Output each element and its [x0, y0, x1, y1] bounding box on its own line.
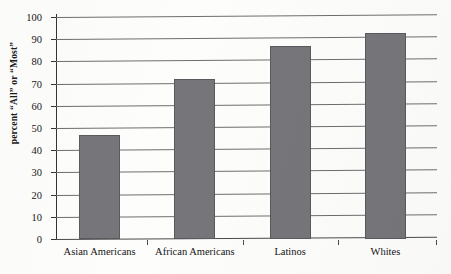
- x-axis-category-label: Latinos: [274, 246, 306, 257]
- y-axis-tick-label: 30: [32, 167, 43, 178]
- y-axis-tick: 60: [51, 106, 56, 107]
- plot-area: 0102030405060708090100: [56, 18, 437, 240]
- y-axis-tick: 100: [51, 17, 56, 18]
- y-axis-tick: 20: [51, 195, 56, 196]
- y-axis-tick-label: 60: [32, 100, 43, 111]
- y-axis-tick-label: 70: [32, 78, 43, 89]
- y-axis-tick-label: 80: [32, 56, 43, 67]
- y-axis-tick: 50: [51, 128, 56, 129]
- y-axis-title: percent “All” or “Most”: [9, 31, 19, 155]
- y-axis-tick-label: 0: [37, 234, 42, 245]
- y-axis-tick: 80: [51, 61, 56, 62]
- y-axis-tick-label: 90: [32, 34, 43, 45]
- x-axis-tick: [436, 240, 437, 245]
- y-axis-tick: 40: [51, 150, 56, 151]
- y-axis-tick: 0: [51, 239, 56, 240]
- y-axis-tick-label: 20: [32, 189, 43, 200]
- x-axis-tick: [147, 240, 148, 245]
- bar: [270, 46, 311, 239]
- x-axis-category-label: African Americans: [155, 246, 235, 257]
- y-axis-tick-label: 100: [26, 12, 42, 23]
- x-axis-tick: [243, 240, 244, 245]
- y-axis-tick: 10: [51, 217, 56, 218]
- x-axis-tick: [338, 240, 339, 245]
- bar: [174, 79, 215, 239]
- y-axis-tick-label: 40: [32, 145, 43, 156]
- bar: [79, 135, 120, 239]
- y-axis-tick: 30: [51, 172, 56, 173]
- bar-chart: percent “All” or “Most” 0102030405060708…: [0, 0, 451, 274]
- x-axis-category-label: Whites: [371, 246, 401, 257]
- gridline: [56, 14, 437, 18]
- bar: [365, 33, 406, 239]
- x-axis-category-label: Asian Americans: [64, 246, 136, 257]
- y-axis-tick: 70: [51, 84, 56, 85]
- y-axis-tick-label: 10: [32, 211, 43, 222]
- y-axis-tick: 90: [51, 39, 56, 40]
- y-axis-tick-label: 50: [32, 123, 43, 134]
